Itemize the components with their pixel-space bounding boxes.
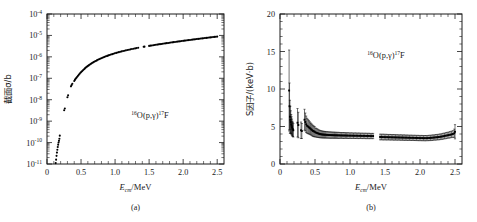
data-point [288, 90, 290, 92]
error-bars-b [288, 50, 456, 141]
y-axis-label-b: S因子/(keV·b) [245, 62, 255, 116]
data-point [55, 159, 57, 161]
x-tick-label-a: 1.0 [110, 168, 120, 177]
data-point [71, 83, 73, 85]
data-point [290, 121, 292, 123]
panel-caption-b: (b) [366, 203, 376, 212]
data-point [297, 122, 299, 124]
data-point [143, 46, 145, 48]
data-point [304, 121, 306, 123]
y-tick-label-a: 10-6 [29, 52, 42, 62]
x-tick-label-a: 2.0 [178, 168, 188, 177]
data-point [289, 116, 291, 118]
x-tick-label-a: 2.5 [212, 168, 222, 177]
data-point [289, 105, 291, 107]
plot-frame-b [280, 14, 462, 164]
data-point [59, 135, 61, 137]
data-point [55, 162, 57, 164]
data-points-b [288, 90, 456, 140]
panel-b-plot: 00.51.01.52.02.505101520S因子/(keV·b)Ecm/M… [240, 0, 477, 222]
x-axis-label-a: Ecm/MeV [119, 182, 153, 193]
plot-frame-a [47, 14, 224, 164]
data-point [63, 109, 65, 111]
y-tick-label-b: 5 [271, 123, 275, 132]
panel-caption-a: (a) [131, 203, 140, 212]
y-tick-label-b: 10 [267, 85, 275, 94]
data-point [57, 146, 59, 148]
data-point [454, 131, 456, 133]
data-point [55, 155, 57, 157]
annotation-reaction-a: 16O(p,γ)17F [131, 110, 169, 120]
figure-container: 00.51.01.52.02.510-1110-1010-910-810-710… [0, 0, 477, 222]
y-axis-label-a: 截面σ/b [3, 74, 13, 103]
x-tick-label-b: 2.0 [415, 168, 425, 177]
x-tick-label-a: 0 [45, 168, 49, 177]
panel-a: 00.51.01.52.02.510-1110-1010-910-810-710… [0, 0, 240, 222]
y-tick-label-a: 10-11 [27, 159, 43, 169]
y-tick-label-a: 10-8 [29, 95, 42, 105]
x-tick-label-b: 2.5 [450, 168, 460, 177]
x-tick-label-b: 1.0 [345, 168, 355, 177]
y-tick-label-b: 15 [267, 48, 275, 57]
x-tick-label-b: 1.5 [380, 168, 390, 177]
data-point [289, 119, 291, 121]
data-point [297, 124, 299, 126]
data-points-a [55, 36, 219, 165]
x-tick-label-b: 0.5 [310, 168, 320, 177]
y-tick-label-a: 10-5 [29, 30, 42, 40]
data-point [137, 47, 139, 49]
annotation-reaction-b: 16O(p,γ)17F [367, 50, 405, 60]
panel-a-plot: 00.51.01.52.02.510-1110-1010-910-810-710… [0, 0, 240, 222]
y-tick-label-a: 10-4 [29, 9, 42, 19]
y-tick-label-b: 20 [267, 10, 275, 19]
data-point [64, 107, 66, 109]
y-tick-label-a: 10-9 [29, 116, 42, 126]
data-point [304, 119, 306, 121]
x-tick-label-a: 0.5 [76, 168, 86, 177]
data-point [216, 36, 218, 38]
x-tick-label-b: 0 [278, 168, 282, 177]
data-point [57, 144, 59, 146]
data-point [58, 140, 60, 142]
data-point [292, 129, 294, 131]
data-point [56, 149, 58, 151]
x-axis-label-b: Ecm/MeV [354, 182, 388, 193]
y-tick-label-b: 0 [271, 160, 275, 169]
x-tick-label-a: 1.5 [144, 168, 154, 177]
data-point [66, 96, 68, 98]
data-point [301, 130, 303, 132]
data-point [56, 152, 58, 154]
y-tick-label-a: 10-10 [26, 137, 42, 147]
panel-b: 00.51.01.52.02.505101520S因子/(keV·b)Ecm/M… [240, 0, 477, 222]
data-point [58, 138, 60, 140]
y-tick-label-a: 10-7 [29, 73, 42, 83]
data-point [372, 135, 374, 137]
data-point [67, 94, 69, 96]
